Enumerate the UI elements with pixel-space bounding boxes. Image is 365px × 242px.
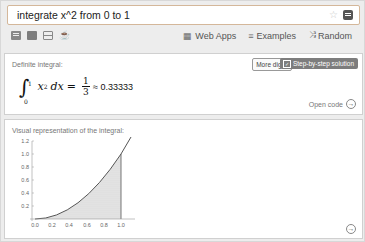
svg-text:0.6: 0.6 [83, 222, 91, 228]
list-icon: ≡ [248, 31, 253, 41]
input-mode-bar: ☕ [11, 31, 68, 43]
shuffle-icon: ⤨ [308, 30, 315, 41]
random-link[interactable]: ⤨ Random [308, 30, 352, 41]
image-icon[interactable] [27, 31, 37, 40]
integral-result: ∫ 1 0 x 2 dx = 1 3 ≈ 0.33333 [19, 76, 133, 97]
star-icon[interactable]: ☆ [329, 9, 338, 20]
web-apps-link[interactable]: ▦ Web Apps [183, 30, 236, 41]
svg-text:0.4: 0.4 [21, 190, 29, 196]
numerator: 1 [83, 76, 89, 86]
equals-sign: = [67, 80, 76, 93]
grid-icon: ▦ [183, 31, 192, 41]
equals-icon[interactable] [343, 10, 353, 20]
svg-text:0.6: 0.6 [21, 177, 29, 183]
upper-limit: 1 [28, 74, 32, 94]
svg-text:1.0: 1.0 [117, 222, 125, 228]
top-links: ▦ Web Apps ≡ Examples ⤨ Random [183, 30, 352, 41]
svg-text:0.0: 0.0 [31, 222, 39, 228]
lower-limit: 0 [24, 92, 28, 112]
search-bar[interactable]: integrate x^2 from 0 to 1 ☆ [7, 5, 360, 25]
svg-text:0.2: 0.2 [48, 222, 56, 228]
approx-value: ≈ 0.33333 [93, 82, 133, 92]
svg-text:0.8: 0.8 [100, 222, 108, 228]
app-frame: integrate x^2 from 0 to 1 ☆ ☕ ▦ Web Apps… [0, 0, 365, 242]
integral-plot: 0.0 0.2 0.4 0.6 0.8 1.0 0.2 0.4 0.6 0.8 … [13, 133, 143, 233]
examples-label: Examples [256, 31, 296, 41]
step-by-step-button[interactable]: ✓ Step-by-step solution [280, 58, 358, 69]
visual-representation-pod: Visual representation of the integral: 0… [4, 119, 363, 239]
random-label: Random [318, 31, 352, 41]
checkbox-icon: ✓ [283, 60, 291, 68]
differential: dx [50, 80, 63, 93]
svg-text:1.0: 1.0 [21, 151, 29, 157]
svg-text:0.4: 0.4 [65, 222, 73, 228]
svg-text:1.2: 1.2 [21, 138, 29, 144]
web-apps-label: Web Apps [195, 31, 236, 41]
step-by-step-label: Step-by-step solution [293, 58, 354, 69]
fraction: 1 3 [82, 76, 90, 97]
camera-icon[interactable]: ☕ [59, 31, 68, 40]
pod-title: Definite integral: [12, 61, 63, 68]
open-code-label: Open code [309, 101, 343, 108]
arrow-right-icon[interactable]: → [346, 224, 356, 234]
integral-sign: ∫ 1 0 [19, 77, 29, 97]
exponent: 2 [44, 83, 48, 90]
arrow-right-icon: → [346, 99, 356, 109]
table-icon[interactable] [43, 31, 53, 40]
definite-integral-pod: Definite integral: More digits ✓ Step-by… [4, 53, 363, 115]
open-code-link[interactable]: Open code → [309, 99, 356, 109]
keyboard-icon[interactable] [11, 31, 21, 40]
denominator: 3 [83, 87, 89, 97]
svg-text:0.2: 0.2 [21, 203, 29, 209]
search-input[interactable]: integrate x^2 from 0 to 1 [17, 9, 130, 21]
examples-link[interactable]: ≡ Examples [248, 30, 296, 41]
svg-text:0.8: 0.8 [21, 164, 29, 170]
